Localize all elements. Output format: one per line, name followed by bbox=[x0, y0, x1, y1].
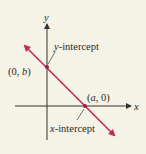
x-axis-label: x bbox=[133, 101, 139, 112]
x-intercept-point bbox=[83, 104, 87, 108]
y-intercept-point bbox=[45, 65, 49, 69]
y-axis-label: y bbox=[43, 12, 49, 23]
line bbox=[25, 46, 114, 135]
x-intercept-coord: (a, 0) bbox=[87, 92, 110, 104]
y-intercept-annotation: y-intercept bbox=[53, 41, 99, 52]
intercepts-diagram: x y y-intercept (0, b) (a, 0) x-intercep… bbox=[0, 0, 146, 154]
y-intercept-leader bbox=[48, 52, 55, 64]
y-intercept-coord: (0, b) bbox=[8, 66, 31, 78]
x-intercept-annotation: x-intercept bbox=[49, 123, 95, 134]
x-intercept-leader bbox=[77, 109, 84, 120]
